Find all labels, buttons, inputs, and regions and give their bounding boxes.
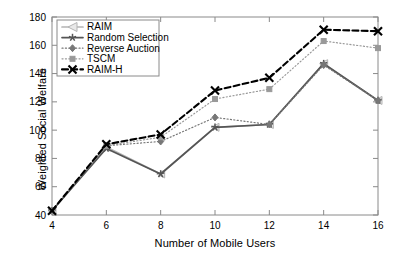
- x-tick-label: 16: [372, 220, 384, 231]
- x-tick-label: 14: [318, 220, 330, 231]
- x-axis-title: Number of Mobile Users: [52, 237, 378, 249]
- y-axis-title: Weighted Social Welfare: [36, 39, 48, 219]
- legend-label: RAIM-H: [87, 64, 123, 75]
- series-raim: [48, 60, 382, 215]
- y-tick-label: 180: [29, 12, 46, 23]
- legend-label: TSCM: [87, 53, 115, 64]
- chart-legend: RAIMRandom SelectionReverse AuctionTSCMR…: [57, 20, 169, 76]
- x-tick-label: 8: [158, 220, 164, 231]
- x-tick-label: 12: [264, 220, 276, 231]
- legend-label: Reverse Auction: [87, 43, 160, 54]
- series-reverse-auction: [49, 62, 381, 215]
- legend-label: Random Selection: [87, 32, 169, 43]
- weighted-social-welfare-line-chart: 406080100120140160180 46810121416 RAIMRa…: [0, 0, 410, 258]
- legend-label: RAIM: [87, 21, 112, 32]
- x-tick-label: 10: [209, 220, 221, 231]
- series-random-selection: [48, 60, 381, 214]
- chart-container: 406080100120140160180 46810121416 RAIMRa…: [0, 0, 410, 258]
- x-tick-label: 6: [104, 220, 110, 231]
- x-tick-label: 4: [49, 220, 55, 231]
